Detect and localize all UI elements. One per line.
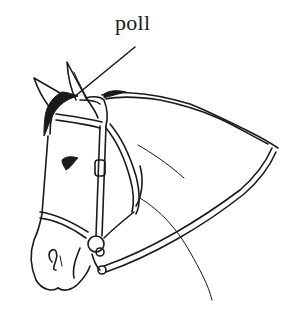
poll-leader-line: [74, 47, 135, 97]
eye: [62, 157, 78, 170]
chin-strap: [104, 212, 134, 238]
mouth-line: [73, 248, 80, 278]
neck-muscle-line: [138, 145, 184, 178]
throatlash: [106, 124, 139, 214]
cheekpiece: [96, 126, 106, 236]
neck-crest: [102, 92, 278, 148]
neck-underline: [140, 198, 212, 300]
horse-head-illustration: [0, 0, 298, 327]
nostril: [49, 250, 57, 270]
crownpiece: [80, 97, 107, 126]
browband: [56, 114, 102, 128]
neck-crest-inner: [106, 97, 268, 144]
noseband: [40, 212, 88, 238]
jaw-line: [136, 166, 142, 206]
nostril-mark: [60, 256, 62, 266]
